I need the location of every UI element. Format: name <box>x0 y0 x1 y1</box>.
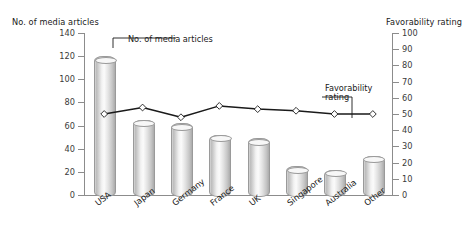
bar-uk <box>248 138 270 197</box>
bar-cap <box>210 135 232 142</box>
x-axis-line <box>84 195 393 196</box>
right-tick-label-70: 70 <box>402 78 412 86</box>
left-y-axis-line <box>84 33 85 196</box>
left-tick-label-60: 60 <box>49 122 75 130</box>
right-tick-label-100: 100 <box>402 29 418 37</box>
left-tick-60 <box>78 126 84 127</box>
right-tick-label-20: 20 <box>402 159 412 167</box>
callout-leader-lines <box>113 38 352 118</box>
right-tick-label-50: 50 <box>402 110 412 118</box>
left-tick-label-40: 40 <box>49 145 75 153</box>
line-polyline <box>104 106 373 117</box>
right-tick-60 <box>393 98 399 99</box>
left-tick-80 <box>78 102 84 103</box>
left-tick-label-0: 0 <box>49 191 75 199</box>
bar-usa <box>94 56 116 197</box>
right-tick-100 <box>393 33 399 34</box>
bar-cap <box>363 156 385 163</box>
line-callout-line2: rating <box>325 93 372 102</box>
bar-cap <box>133 120 155 127</box>
line-callout-label: Favorability rating <box>325 84 372 103</box>
line-marker-france <box>216 103 223 110</box>
right-tick-label-80: 80 <box>402 61 412 69</box>
line-marker-uk <box>254 106 261 113</box>
left-tick-label-20: 20 <box>49 168 75 176</box>
line-marker-singapore <box>293 107 300 114</box>
right-tick-40 <box>393 130 399 131</box>
right-tick-20 <box>393 163 399 164</box>
right-tick-10 <box>393 179 399 180</box>
line-markers <box>101 103 376 121</box>
right-tick-label-90: 90 <box>402 45 412 53</box>
right-tick-90 <box>393 49 399 50</box>
bar-cap <box>248 139 270 146</box>
right-tick-label-40: 40 <box>402 126 412 134</box>
left-tick-label-140: 140 <box>49 29 75 37</box>
left-tick-40 <box>78 149 84 150</box>
right-tick-30 <box>393 146 399 147</box>
left-tick-20 <box>78 172 84 173</box>
left-tick-0 <box>78 195 84 196</box>
bar-cap <box>325 170 347 177</box>
line-marker-other <box>369 111 376 118</box>
left-tick-140 <box>78 33 84 34</box>
bar-cap <box>95 57 117 64</box>
right-tick-70 <box>393 82 399 83</box>
bars-callout-label: No. of media articles <box>128 35 213 44</box>
line-marker-australia <box>331 111 338 118</box>
right-tick-label-10: 10 <box>402 175 412 183</box>
left-axis-title: No. of media articles <box>12 17 99 27</box>
right-tick-label-60: 60 <box>402 94 412 102</box>
bar-cap <box>171 124 193 131</box>
right-tick-0 <box>393 195 399 196</box>
left-tick-label-100: 100 <box>49 75 75 83</box>
right-tick-80 <box>393 65 399 66</box>
line-marker-germany <box>178 114 185 121</box>
bar-japan <box>133 120 155 197</box>
right-tick-label-30: 30 <box>402 142 412 150</box>
left-tick-100 <box>78 79 84 80</box>
right-tick-50 <box>393 114 399 115</box>
left-tick-label-80: 80 <box>49 98 75 106</box>
right-tick-label-0: 0 <box>402 191 407 199</box>
left-tick-label-120: 120 <box>49 52 75 60</box>
bar-cap <box>287 167 309 174</box>
left-tick-120 <box>78 56 84 57</box>
dual-axis-chart: No. of media articles Favorability ratin… <box>0 0 472 248</box>
right-axis-title: Favorability rating <box>386 17 462 27</box>
line-marker-japan <box>139 104 146 111</box>
